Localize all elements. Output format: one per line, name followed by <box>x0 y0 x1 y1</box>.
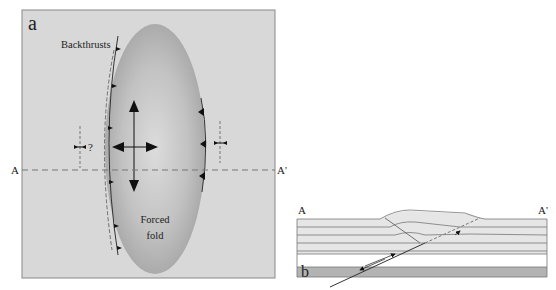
section-end-label: A' <box>277 164 287 176</box>
forced-fold-label-1: Forced <box>140 214 170 225</box>
panel-b-label: b <box>301 263 309 280</box>
panel-a-label: a <box>28 12 37 34</box>
panel-b: A A' b <box>297 204 548 287</box>
figure: ? a Backthrusts Forced fold A A' <box>0 0 556 290</box>
panel-b-section-end: A' <box>538 204 548 216</box>
white-layer <box>297 254 547 267</box>
panel-b-section-start: A <box>298 204 306 216</box>
forced-fold-label-2: fold <box>147 230 165 241</box>
panel-a: ? a Backthrusts Forced fold A A' <box>11 10 287 278</box>
layer-stack <box>297 219 547 254</box>
backthrusts-label: Backthrusts <box>61 39 111 50</box>
question-mark: ? <box>88 141 93 153</box>
section-start-label: A <box>11 164 19 176</box>
basement-layer <box>297 267 547 277</box>
